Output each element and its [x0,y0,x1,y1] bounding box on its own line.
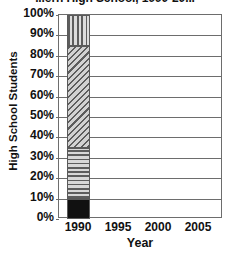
y-tick-50: 50% [6,108,54,122]
stacked-bar-chart: ...ern High School, 1990-20... High Scho… [0,0,230,264]
x-tick-2000: 2000 [136,220,180,234]
bar-segment-segment-1-bottom[interactable] [67,199,90,219]
y-tickmark [56,158,59,159]
x-tick-1995: 1995 [96,220,140,234]
bar-segment-segment-2[interactable] [67,148,90,199]
y-tick-10: 10% [6,190,54,204]
y-tickmark [56,137,59,138]
bar-segment-segment-3[interactable] [67,46,90,148]
bar-segment-segment-4-top[interactable] [67,15,90,46]
y-tickmark [56,97,59,98]
chart-title: ...ern High School, 1990-20... [0,0,230,5]
y-tickmark [56,76,59,77]
y-tickmark [56,35,59,36]
y-tick-40: 40% [6,128,54,142]
y-tickmark [56,56,59,57]
y-tick-70: 70% [6,67,54,81]
y-tick-80: 80% [6,47,54,61]
y-tickmark [56,15,59,16]
plot-area [58,14,222,218]
y-tick-20: 20% [6,169,54,183]
x-tick-1990: 1990 [56,220,100,234]
y-tick-90: 90% [6,26,54,40]
y-tick-60: 60% [6,88,54,102]
y-tick-30: 30% [6,149,54,163]
x-tick-2005: 2005 [176,220,220,234]
y-tickmark [56,117,59,118]
y-tickmark [56,199,59,200]
bar-1990[interactable] [67,15,90,217]
y-tickmark [56,178,59,179]
y-tick-100: 100% [6,6,54,20]
y-tick-0: 0% [6,210,54,224]
x-axis-title: Year [58,236,222,250]
